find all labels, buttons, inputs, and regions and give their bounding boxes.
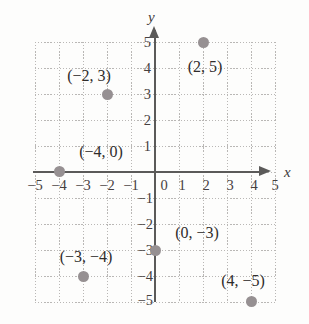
x-tick-5: 5 — [271, 178, 278, 193]
y-tick--4: −4 — [138, 269, 153, 284]
y-tick-5: 5 — [144, 35, 151, 50]
y-axis — [154, 30, 156, 302]
y-tick--2: −2 — [138, 217, 153, 232]
data-point — [246, 296, 257, 307]
x-tick--5: −5 — [27, 178, 42, 193]
coordinate-plane-figure: x y −5 −4 −3 −2 −1 0 1 2 3 4 5 5 4 3 2 1… — [0, 0, 309, 324]
data-point — [54, 166, 65, 177]
data-point — [78, 271, 89, 282]
data-point — [102, 89, 113, 100]
point-label-neg3-neg4: (−3, −4) — [60, 249, 113, 265]
y-tick-4: 4 — [144, 61, 151, 76]
x-tick-1: 1 — [178, 178, 185, 193]
gridline-vertical — [275, 42, 276, 302]
x-tick--2: −2 — [99, 178, 114, 193]
point-label-neg2-3: (−2, 3) — [67, 68, 111, 84]
x-tick--4: −4 — [51, 178, 66, 193]
x-tick--3: −3 — [75, 178, 90, 193]
y-tick--5: −5 — [138, 293, 153, 308]
point-label-0-neg3: (0, −3) — [175, 225, 219, 241]
x-tick--1: −1 — [123, 178, 138, 193]
x-tick-2: 2 — [202, 178, 209, 193]
x-axis — [33, 171, 261, 173]
y-axis-label: y — [148, 10, 155, 25]
x-tick-0: 0 — [160, 178, 167, 193]
y-tick--1: −1 — [138, 191, 153, 206]
x-axis-label: x — [284, 165, 291, 180]
y-tick-3: 3 — [144, 87, 151, 102]
y-tick-1: 1 — [144, 139, 151, 154]
x-tick-3: 3 — [226, 178, 233, 193]
point-label-2-5: (2, 5) — [188, 59, 223, 75]
x-tick-4: 4 — [250, 178, 257, 193]
x-axis-arrow-icon — [259, 166, 271, 176]
point-label-neg4-0: (−4, 0) — [79, 144, 123, 160]
gridline-horizontal — [35, 302, 275, 303]
y-tick-2: 2 — [144, 113, 151, 128]
data-point — [198, 37, 209, 48]
point-label-4-neg5: (4, −5) — [221, 273, 265, 289]
data-point — [150, 245, 161, 256]
